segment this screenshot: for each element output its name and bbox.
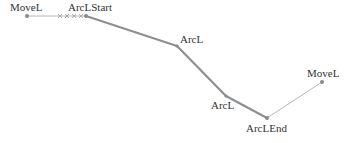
movel-segment-end [267,82,322,118]
point-arcl-1 [175,44,178,47]
path-points [25,14,324,120]
point-arclstart [84,14,88,18]
label-arclstart: ArcLStart [68,1,112,13]
label-arcl-1: ArcL [180,33,203,45]
label-movel-2: MoveL [307,67,340,79]
label-arclend: ArcLEnd [246,122,287,134]
point-arclend [265,116,269,120]
arcl-path [86,16,267,118]
label-arcl-2: ArcL [211,99,234,111]
point-movel-1 [25,14,29,18]
path-diagram: MoveL ArcLStart ArcL ArcL ArcLEnd MoveL [0,0,348,143]
point-movel-2 [320,80,324,84]
label-movel-1: MoveL [10,1,43,13]
point-arcl-2 [224,94,227,97]
